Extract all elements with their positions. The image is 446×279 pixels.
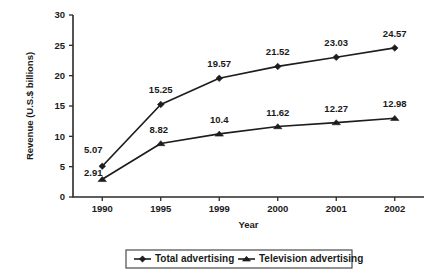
data-point-marker-diamond xyxy=(333,54,340,61)
data-point-label: 8.82 xyxy=(150,124,169,135)
data-point-label: 2.91 xyxy=(84,167,103,178)
y-tick-label: 25 xyxy=(54,40,65,51)
x-tick-label: 1990 xyxy=(92,203,113,214)
data-point-label: 19.57 xyxy=(207,58,231,69)
data-point-marker-diamond xyxy=(216,75,223,82)
data-point-label: 15.25 xyxy=(149,84,173,95)
data-point-marker-diamond xyxy=(391,45,398,52)
x-axis-title: Year xyxy=(238,219,258,230)
legend-label: Total advertising xyxy=(155,253,234,264)
data-point-label: 12.98 xyxy=(383,98,407,109)
series-line xyxy=(102,118,395,179)
data-point-label: 10.4 xyxy=(210,114,229,125)
line-chart: 051015202530199019951999200020012002Year… xyxy=(0,0,446,279)
y-tick-label: 10 xyxy=(54,131,65,142)
series-television-advertising: 2.918.8210.411.6212.2712.98 xyxy=(84,98,407,181)
chart-axes xyxy=(73,15,424,197)
data-point-label: 21.52 xyxy=(266,46,290,57)
y-tick-label: 5 xyxy=(60,161,66,172)
data-point-label: 5.07 xyxy=(84,144,103,155)
data-point-label: 23.03 xyxy=(324,37,348,48)
x-tick-label: 2002 xyxy=(384,203,405,214)
x-tick-label: 1995 xyxy=(150,203,172,214)
x-tick-label: 2000 xyxy=(267,203,288,214)
y-axis-title: Revenue (U.S.$ billions) xyxy=(24,52,35,160)
y-tick-label: 30 xyxy=(54,9,65,20)
x-tick-label: 2001 xyxy=(326,203,348,214)
chart-legend: Total advertisingTelevision advertising xyxy=(126,250,363,268)
y-tick-label: 20 xyxy=(54,70,65,81)
data-point-label: 11.62 xyxy=(266,107,289,118)
y-tick-label: 0 xyxy=(60,191,65,202)
data-point-label: 24.57 xyxy=(383,28,407,39)
y-tick-label: 15 xyxy=(54,100,65,111)
data-point-marker-diamond xyxy=(274,63,281,70)
series-total-advertising: 5.0715.2519.5721.5223.0324.57 xyxy=(84,28,407,170)
data-point-label: 12.27 xyxy=(324,103,348,114)
legend-label: Television advertising xyxy=(259,253,363,264)
x-tick-label: 1999 xyxy=(209,203,230,214)
chart-container: 051015202530199019951999200020012002Year… xyxy=(0,0,446,279)
series-line xyxy=(102,48,395,166)
